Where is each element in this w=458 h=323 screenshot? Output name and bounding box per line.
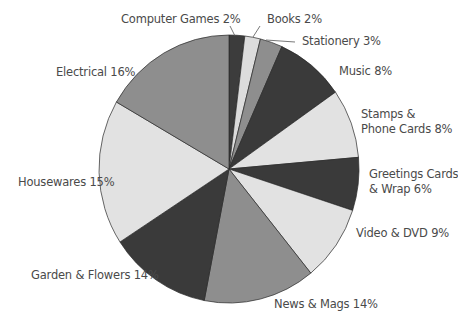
label-electrical: Electrical 16% xyxy=(56,65,135,80)
label-housewares: Housewares 15% xyxy=(18,175,114,190)
label-greetings-line2: & Wrap 6% xyxy=(369,182,458,197)
label-computer-games: Computer Games 2% xyxy=(121,12,241,27)
label-stationery: Stationery 3% xyxy=(302,34,381,49)
label-greetings: Greetings Cards & Wrap 6% xyxy=(369,167,458,197)
leader-books xyxy=(253,26,260,37)
label-video: Video & DVD 9% xyxy=(356,226,449,241)
label-stamps-line2: Phone Cards 8% xyxy=(361,122,452,137)
label-stamps: Stamps & Phone Cards 8% xyxy=(361,107,452,137)
leader-computer-games xyxy=(230,26,235,36)
label-music: Music 8% xyxy=(339,64,392,79)
label-greetings-line1: Greetings Cards xyxy=(369,167,458,182)
label-news: News & Mags 14% xyxy=(274,297,378,312)
pie-slices xyxy=(99,35,359,303)
label-stamps-line1: Stamps & xyxy=(361,107,452,122)
label-garden: Garden & Flowers 14% xyxy=(31,268,159,283)
label-books: Books 2% xyxy=(267,12,322,27)
